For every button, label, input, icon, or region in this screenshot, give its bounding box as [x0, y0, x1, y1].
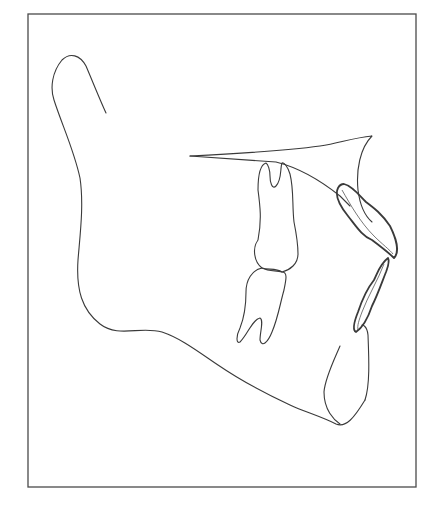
- mandible-outline: [52, 55, 365, 424]
- frame-border: [28, 14, 416, 487]
- mandibular-molar: [237, 268, 286, 344]
- maxillary-incisor-inner: [342, 190, 393, 254]
- cephalometric-tracing: [0, 0, 437, 514]
- maxillary-molar: [255, 163, 298, 272]
- maxillary-incisor: [337, 184, 397, 258]
- palatal-plane: [190, 136, 372, 222]
- mandibular-incisor-inner: [358, 264, 384, 330]
- symphysis-inner: [324, 346, 340, 424]
- symphysis-outline: [362, 325, 369, 400]
